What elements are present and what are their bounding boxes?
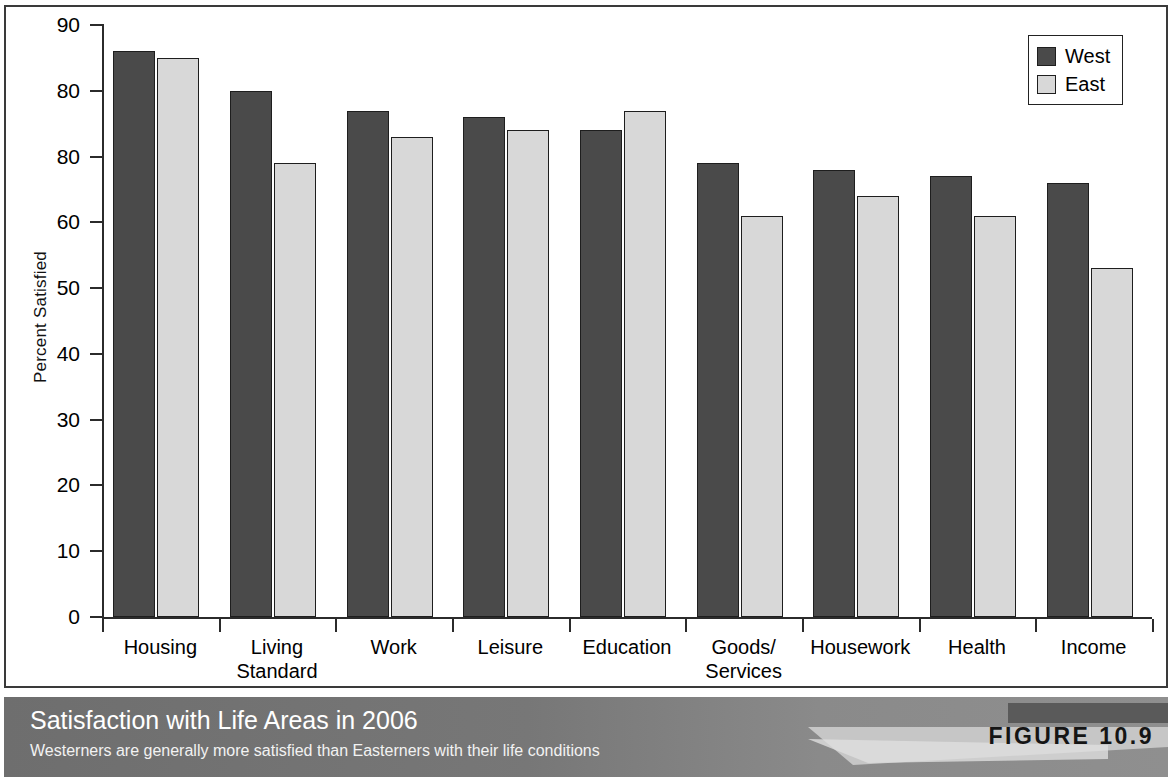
x-tick-mark	[219, 619, 221, 632]
bar-east	[274, 163, 316, 617]
y-tick-label: 80	[10, 146, 80, 167]
y-tick-label: 0	[10, 606, 80, 627]
figure-number-badge: FIGURE 10.9	[988, 723, 1154, 750]
bar-east	[1091, 268, 1133, 617]
bar-east	[624, 111, 666, 617]
y-tick-mark	[90, 353, 104, 355]
bar-east	[507, 130, 549, 617]
y-tick-mark	[90, 156, 104, 158]
bar-east	[157, 58, 199, 617]
y-tick-mark	[90, 221, 104, 223]
x-category-label: LivingStandard	[219, 635, 336, 684]
bar-west	[813, 170, 855, 617]
x-category-label: Goods/Services	[685, 635, 802, 684]
x-category-label: Housing	[102, 635, 219, 659]
caption-subtitle: Westerners are generally more satisfied …	[30, 741, 600, 760]
bar-west	[230, 91, 272, 617]
x-tick-mark	[1035, 619, 1037, 632]
x-category-label: Work	[335, 635, 452, 659]
x-tick-mark	[1152, 619, 1154, 632]
y-tick-label: 30	[10, 409, 80, 430]
bar-east	[391, 137, 433, 617]
y-tick-mark	[90, 90, 104, 92]
legend-swatch-east-icon	[1037, 75, 1056, 94]
x-tick-mark	[685, 619, 687, 632]
y-tick-label: 50	[10, 277, 80, 298]
y-tick-mark	[90, 24, 104, 26]
x-category-label: Housework	[802, 635, 919, 659]
x-axis-line	[102, 617, 1152, 619]
caption-bar: Satisfaction with Life Areas in 2006 Wes…	[4, 697, 1168, 777]
caption-title: Satisfaction with Life Areas in 2006	[30, 706, 600, 735]
y-tick-label: 60	[10, 211, 80, 232]
bar-west	[697, 163, 739, 617]
legend-swatch-west-icon	[1037, 47, 1056, 66]
legend-item-east: East	[1037, 70, 1110, 98]
y-tick-mark	[90, 484, 104, 486]
y-tick-label: 10	[10, 540, 80, 561]
x-category-label: Education	[569, 635, 686, 659]
y-tick-mark	[90, 616, 104, 618]
y-tick-label: 90	[10, 14, 80, 35]
caption-text-block: Satisfaction with Life Areas in 2006 Wes…	[30, 706, 600, 760]
x-tick-mark	[569, 619, 571, 632]
y-axis-line	[102, 25, 104, 619]
x-category-label: Health	[919, 635, 1036, 659]
y-tick-mark	[90, 287, 104, 289]
x-category-label: Leisure	[452, 635, 569, 659]
bar-west	[930, 176, 972, 617]
y-tick-mark	[90, 419, 104, 421]
bar-west	[113, 51, 155, 617]
bar-east	[741, 216, 783, 617]
bar-west	[463, 117, 505, 617]
y-tick-mark	[90, 550, 104, 552]
y-tick-label: 80	[10, 80, 80, 101]
bar-east	[857, 196, 899, 617]
legend-label-west: West	[1065, 45, 1110, 68]
x-tick-mark	[102, 619, 104, 632]
y-axis-title: Percent Satisfied	[31, 57, 51, 577]
y-tick-label: 20	[10, 474, 80, 495]
bar-west	[1047, 183, 1089, 617]
legend-item-west: West	[1037, 42, 1110, 70]
chart-frame: Percent Satisfied 9080806050403020100 Ho…	[4, 5, 1168, 688]
bar-west	[580, 130, 622, 617]
bar-west	[347, 111, 389, 617]
bar-east	[974, 216, 1016, 617]
x-category-label: Income	[1035, 635, 1152, 659]
y-tick-label: 40	[10, 343, 80, 364]
x-tick-mark	[919, 619, 921, 632]
chart-legend: West East	[1028, 35, 1123, 105]
legend-label-east: East	[1065, 73, 1105, 96]
figure-container: Percent Satisfied 9080806050403020100 Ho…	[0, 0, 1173, 783]
x-tick-mark	[802, 619, 804, 632]
x-tick-mark	[335, 619, 337, 632]
x-tick-mark	[452, 619, 454, 632]
plot-area: Percent Satisfied 9080806050403020100 Ho…	[6, 7, 1170, 690]
